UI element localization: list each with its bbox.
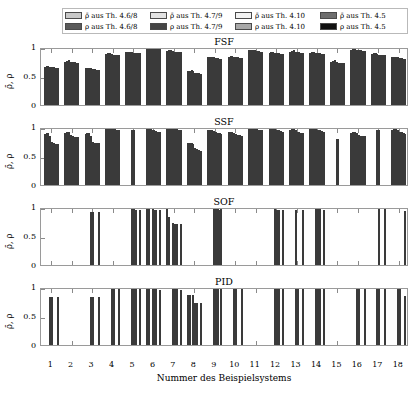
bars-layer: [41, 49, 407, 105]
y-axis-title: ρ̄, ρ: [4, 154, 14, 169]
bar: [217, 288, 219, 345]
legend-entry[interactable]: ρ̄ aus Th. 4.5: [320, 12, 405, 20]
legend-entry[interactable]: ρ aus Th. 4.7/9: [150, 23, 235, 31]
x-tick-label: 9: [211, 360, 216, 370]
bar: [148, 289, 150, 345]
bar: [98, 212, 100, 265]
bar: [241, 136, 243, 185]
legend-swatch-icon: [320, 12, 337, 19]
plot-area: [40, 288, 408, 346]
y-tick-label: 0: [31, 102, 36, 110]
legend-entry[interactable]: ρ aus Th. 4.5: [320, 23, 405, 31]
legend-label: ρ̄ aus Th. 4.10: [255, 12, 305, 20]
x-tick-label: 12: [270, 360, 280, 370]
bar: [384, 289, 386, 345]
bar: [364, 136, 366, 185]
x-tick-label: 2: [68, 360, 73, 370]
bar: [51, 297, 53, 345]
bar: [337, 139, 339, 185]
panel-title: SSF: [40, 117, 408, 127]
bar: [77, 137, 79, 185]
legend-entry[interactable]: ρ̄ aus Th. 4.7/9: [150, 12, 235, 20]
legend-entry[interactable]: ρ aus Th. 4.10: [235, 23, 320, 31]
bar: [180, 224, 182, 265]
bar: [220, 134, 222, 185]
plot-area: [40, 128, 408, 186]
legend-swatch-icon: [65, 12, 82, 19]
bar: [77, 63, 79, 105]
bar: [323, 289, 325, 345]
legend-swatch-icon: [235, 12, 252, 19]
bar: [176, 289, 178, 345]
plot-area: [40, 48, 408, 106]
panel-title: FSF: [40, 37, 408, 47]
bar: [282, 210, 284, 265]
y-axis: 10.50ρ̄, ρ: [0, 288, 40, 346]
x-tick-label: 7: [170, 360, 175, 370]
panel-title: SOF: [40, 197, 408, 207]
y-tick-label: 0: [31, 182, 36, 190]
x-tick-label: 8: [191, 360, 196, 370]
bar: [98, 70, 100, 105]
x-axis-tick-labels: 123456789101112131415161718: [40, 360, 408, 372]
y-tick-label: 1: [31, 124, 36, 132]
x-tick-label: 15: [331, 360, 341, 370]
bar: [92, 297, 94, 345]
legend-label: ρ̄ aus Th. 4.6/8: [85, 12, 137, 20]
bar: [278, 288, 280, 345]
bar: [378, 209, 380, 265]
x-tick-label: 17: [372, 360, 382, 370]
bar: [135, 288, 137, 345]
bar: [323, 132, 325, 185]
bar: [155, 289, 157, 345]
bar: [220, 288, 222, 345]
x-tick-label: 6: [150, 360, 155, 370]
bar: [343, 63, 345, 105]
x-tick-label: 1: [48, 360, 53, 370]
legend-swatch-icon: [320, 23, 337, 30]
bar: [118, 55, 120, 105]
bar: [200, 74, 202, 105]
bar: [278, 210, 280, 265]
bar: [148, 209, 150, 265]
y-tick-label: 1: [31, 284, 36, 292]
bar: [399, 288, 401, 345]
x-tick-label: 14: [311, 360, 321, 370]
x-axis-title: Nummer des Beispielsystems: [40, 373, 408, 383]
bar: [384, 55, 386, 105]
bar: [323, 54, 325, 105]
bar: [159, 210, 161, 265]
bar: [302, 289, 304, 345]
bar: [404, 296, 406, 345]
bar: [139, 288, 141, 345]
bar: [220, 59, 222, 105]
bar: [319, 289, 321, 345]
bar: [98, 297, 100, 345]
bar: [159, 49, 161, 105]
bar: [180, 52, 182, 105]
bar: [261, 130, 263, 185]
bar: [235, 289, 237, 345]
x-tick-label: 3: [89, 360, 94, 370]
figure-root: ρ̄ aus Th. 4.6/8ρ̄ aus Th. 4.7/9ρ̄ aus T…: [0, 0, 420, 395]
legend-entry[interactable]: ρ aus Th. 4.6/8: [65, 23, 150, 31]
legend-entry[interactable]: ρ̄ aus Th. 4.10: [235, 12, 320, 20]
bar: [118, 288, 120, 345]
bar: [364, 289, 366, 345]
legend-swatch-icon: [150, 23, 167, 30]
y-tick-label: 0.5: [23, 233, 36, 241]
bar: [139, 53, 141, 105]
legend-swatch-icon: [65, 23, 82, 30]
legend-label: ρ aus Th. 4.10: [255, 23, 305, 31]
bar: [168, 217, 170, 265]
y-axis-title: ρ̄, ρ: [4, 234, 14, 249]
bar: [404, 59, 406, 105]
bar: [133, 130, 135, 185]
x-tick-label: 16: [352, 360, 362, 370]
legend-entry[interactable]: ρ̄ aus Th. 4.6/8: [65, 12, 150, 20]
bar: [92, 212, 94, 265]
bar: [384, 209, 386, 265]
bar: [297, 289, 299, 345]
y-axis-title: ρ̄, ρ: [4, 74, 14, 89]
bar: [323, 210, 325, 265]
